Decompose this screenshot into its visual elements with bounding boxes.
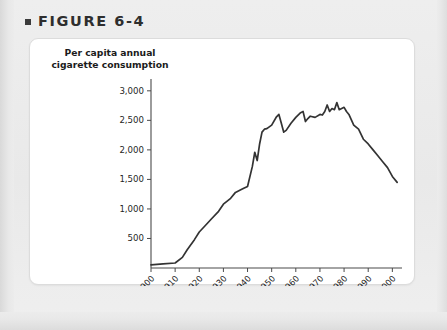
figure-title-label: FIGURE 6-4	[38, 13, 145, 29]
figure-card: Per capita annual cigarette consumption …	[29, 38, 415, 285]
x-tick-label: 1950	[255, 273, 277, 286]
y-tick-label: 1,000	[119, 204, 144, 214]
x-axis-group: 1900191019201930194019501960197019801990…	[134, 268, 402, 286]
y-tick-label: 3,000	[119, 86, 144, 96]
y-tick-label: 500	[128, 233, 144, 243]
x-tick-label: 1900	[134, 273, 156, 286]
y-tick-marks	[147, 91, 151, 239]
x-tick-label: 1920	[183, 273, 205, 286]
line-chart: 5001,0001,5002,0002,5003,000 19001910192…	[30, 39, 416, 286]
x-tick-label: 1940	[231, 273, 253, 286]
x-tick-marks	[151, 268, 392, 272]
x-tick-label: 1930	[207, 273, 229, 286]
x-tick-label: 1960	[279, 273, 301, 286]
y-tick-label: 2,000	[119, 145, 144, 155]
x-tick-label: 1970	[303, 273, 325, 286]
y-tick-label: 2,500	[119, 115, 144, 125]
page-edge-bottom	[0, 312, 447, 330]
y-tick-label: 1,500	[119, 174, 144, 184]
page-background: FIGURE 6-4 Per capita annual cigarette c…	[0, 0, 447, 330]
x-tick-label: 1980	[327, 273, 349, 286]
figure-title: FIGURE 6-4	[25, 13, 145, 29]
x-tick-labels: 1900191019201930194019501960197019801990…	[134, 273, 397, 286]
x-tick-label: 2000	[376, 273, 398, 286]
y-tick-labels: 5001,0001,5002,0002,5003,000	[119, 86, 144, 244]
square-bullet-icon	[25, 19, 31, 25]
y-axis-group: 5001,0001,5002,0002,5003,000	[119, 79, 151, 268]
page-edge-right	[437, 0, 447, 330]
data-line-cigarette-consumption	[151, 103, 397, 265]
x-tick-label: 1990	[351, 273, 373, 286]
x-tick-label: 1910	[158, 273, 180, 286]
page-edge-left	[0, 0, 14, 330]
